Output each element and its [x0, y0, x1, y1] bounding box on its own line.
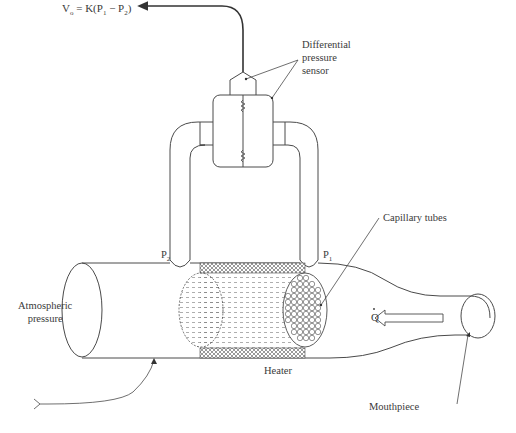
sensor-leader-2	[272, 60, 298, 98]
atmospheric-pressure-label: Atmospheric pressure	[18, 299, 72, 325]
mouthpiece-leader	[457, 335, 468, 404]
signal-wire	[142, 6, 243, 72]
capillary-tubes-label: Capillary tubes	[383, 211, 447, 224]
p1-label: P1	[323, 248, 332, 266]
capillary-bundle-rear	[179, 273, 223, 347]
heater-label: Heater	[264, 364, 292, 377]
sensor-leader-1	[246, 60, 298, 79]
heater-bottom	[200, 348, 305, 358]
heater-top	[200, 263, 305, 273]
differential-pressure-sensor-label: Differential pressure sensor	[302, 38, 351, 77]
p2-label: P2	[161, 248, 170, 266]
output-equation: Vo = K(P1 − P2)	[62, 2, 131, 20]
flow-rate-label: Q	[371, 311, 379, 324]
heater-wire	[40, 360, 154, 404]
flow-arrow	[375, 310, 443, 326]
mouthpiece-label: Mouthpiece	[369, 400, 419, 413]
sensor-connector	[230, 72, 256, 95]
